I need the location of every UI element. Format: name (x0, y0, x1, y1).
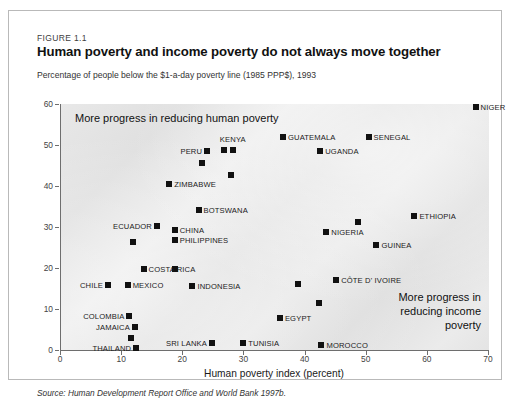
x-axis-tick-label: 10 (106, 354, 136, 364)
y-axis-tick-mark (55, 145, 59, 146)
data-point-label: ZIMBABWE (174, 179, 216, 188)
data-point (221, 147, 227, 153)
data-point-label: EGYPT (285, 314, 312, 323)
data-point (473, 104, 479, 110)
y-axis-tick-mark (55, 309, 59, 310)
data-point (204, 148, 210, 154)
y-axis-tick-label: 60 (27, 99, 53, 109)
data-point (132, 324, 138, 330)
data-point (125, 282, 131, 288)
data-point-label: CHINA (180, 225, 204, 234)
data-point (373, 242, 379, 248)
data-point-label: MOROCCO (326, 341, 368, 350)
data-point-label: NIGERIA (331, 227, 363, 236)
data-point-label: PERU (180, 147, 202, 156)
data-point (196, 207, 202, 213)
x-axis-tick-label: 70 (473, 354, 503, 364)
data-point-label: TUNISIA (248, 339, 279, 348)
data-point-label: SRI LANKA (166, 339, 207, 348)
data-point-label: INDONESIA (197, 282, 240, 291)
annotation-right: More progress in reducing income poverty (389, 290, 481, 332)
data-point (228, 172, 234, 178)
data-point (230, 147, 236, 153)
data-point (172, 227, 178, 233)
y-axis-tick-mark (55, 186, 59, 187)
data-point (209, 340, 215, 346)
y-axis-tick-mark (55, 350, 59, 351)
data-point (126, 313, 132, 319)
data-point (141, 266, 147, 272)
y-axis-tick-label: 20 (27, 263, 53, 273)
annotation-left: More progress in reducing human poverty (75, 111, 279, 125)
data-point (154, 223, 160, 229)
data-point (366, 134, 372, 140)
figure-subtitle: Percentage of people below the $1-a-day … (37, 70, 316, 80)
x-axis-tick-label: 0 (45, 354, 75, 364)
data-point (323, 229, 329, 235)
figure-title: Human poverty and income poverty do not … (37, 44, 441, 59)
y-axis-tick-mark (55, 104, 59, 105)
y-axis-tick-mark (55, 268, 59, 269)
data-point-label: CÔTE D' IVOIRE (341, 275, 401, 284)
x-axis-tick-mark (243, 351, 244, 355)
x-axis-tick-mark (305, 351, 306, 355)
data-point (172, 237, 178, 243)
data-point-label: MEXICO (133, 280, 164, 289)
data-point-label: KENYA (220, 134, 246, 143)
data-point (189, 283, 195, 289)
source-note: Source: Human Development Report Office … (37, 388, 286, 398)
figure-number: FIGURE 1.1 (37, 33, 87, 43)
figure-page: FIGURE 1.1 Human poverty and income pove… (0, 0, 518, 413)
data-point (295, 281, 301, 287)
data-point-label: SENEGAL (374, 132, 411, 141)
data-point-label: COLOMBIA (83, 311, 124, 320)
data-point-label: COSTA RICA (149, 264, 196, 273)
data-point (411, 213, 417, 219)
x-axis-tick-mark (366, 351, 367, 355)
data-point-label: BOTSWANA (204, 206, 248, 215)
data-point (316, 300, 322, 306)
x-axis-tick-label: 50 (351, 354, 381, 364)
data-point (133, 345, 139, 351)
x-axis-tick-label: 40 (290, 354, 320, 364)
data-point (240, 340, 246, 346)
data-point (333, 277, 339, 283)
data-point-label: GUINEA (381, 241, 411, 250)
x-axis-tick-mark (182, 351, 183, 355)
data-point-label: GUATEMALA (288, 132, 336, 141)
data-point-label: THAILAND (92, 343, 131, 352)
data-point-label: ECUADOR (113, 222, 152, 231)
data-point-label: ETHIOPIA (419, 211, 456, 220)
data-point (317, 148, 323, 154)
data-point (355, 219, 361, 225)
data-point (280, 134, 286, 140)
x-axis-tick-mark (488, 351, 489, 355)
data-point-label: PHILIPPINES (180, 236, 229, 245)
data-point-label: UGANDA (325, 147, 358, 156)
x-axis-tick-label: 30 (228, 354, 258, 364)
x-axis-tick-mark (427, 351, 428, 355)
data-point (105, 282, 111, 288)
y-axis-tick-label: 40 (27, 181, 53, 191)
data-point (130, 239, 136, 245)
y-axis-tick-label: 10 (27, 304, 53, 314)
figure-container: FIGURE 1.1 Human poverty and income pove… (8, 10, 502, 380)
y-axis-tick-label: 30 (27, 222, 53, 232)
data-point (318, 342, 324, 348)
y-axis-tick-mark (55, 227, 59, 228)
data-point-label: JAMAICA (96, 323, 130, 332)
data-point (166, 181, 172, 187)
y-axis-tick-label: 50 (27, 140, 53, 150)
data-point (128, 335, 134, 341)
data-point (277, 315, 283, 321)
x-axis-tick-label: 20 (167, 354, 197, 364)
data-point-label: CHILE (80, 280, 103, 289)
x-axis-tick-mark (60, 351, 61, 355)
data-point (199, 160, 205, 166)
x-axis-tick-label: 60 (412, 354, 442, 364)
x-axis-title: Human poverty index (percent) (60, 368, 488, 379)
data-point-label: NIGER (481, 102, 506, 111)
